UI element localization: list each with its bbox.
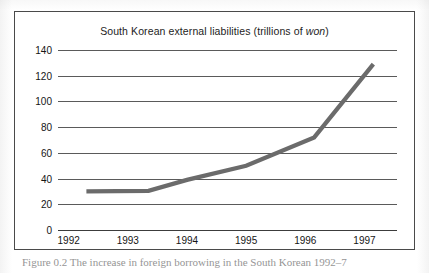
series-line-south-korean-external-liabilities [86, 64, 373, 191]
y-tick-label-60: 60 [41, 147, 52, 158]
figure-caption-text: Figure 0.2 The increase in foreign borro… [22, 256, 347, 268]
y-tick-label-80: 80 [41, 122, 52, 133]
x-tick-label-1997: 1997 [353, 235, 375, 246]
x-tick-label-1995: 1995 [235, 235, 257, 246]
x-tick-label-1994: 1994 [176, 235, 198, 246]
y-tick-label-0: 0 [46, 225, 52, 236]
x-tick-label-1996: 1996 [294, 235, 316, 246]
plot-area: 140120100806040200 199219931994199519961… [58, 50, 397, 230]
scanned-page: South Korean external liabilities (trill… [0, 0, 429, 273]
y-tick-label-100: 100 [35, 96, 52, 107]
chart-title-italic-won: won [306, 25, 326, 37]
y-tick-label-40: 40 [41, 173, 52, 184]
y-tick-label-140: 140 [35, 45, 52, 56]
chart-title-plain: South Korean external liabilities (trill… [100, 25, 306, 37]
figure-caption: Figure 0.2 The increase in foreign borro… [22, 256, 422, 268]
x-tick-label-1993: 1993 [117, 235, 139, 246]
figure-frame: South Korean external liabilities (trill… [14, 11, 415, 250]
series-line-chart [58, 50, 397, 230]
gridline-0 [58, 230, 397, 231]
chart-title: South Korean external liabilities (trill… [15, 25, 414, 37]
chart-title-tail: ) [325, 25, 329, 37]
y-tick-label-120: 120 [35, 70, 52, 81]
x-tick-label-1992: 1992 [58, 235, 80, 246]
y-tick-label-20: 20 [41, 199, 52, 210]
